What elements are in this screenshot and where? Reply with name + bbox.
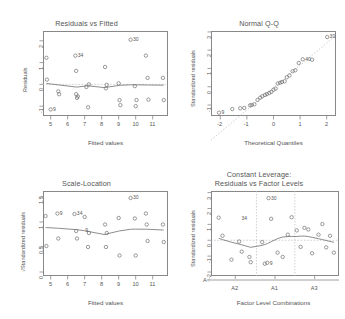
plot-residuals-vs-factor-levels: Constant Leverage: Residuals vs Factor L…: [173, 160, 345, 319]
y-tick-label: 0: [206, 91, 212, 94]
y-tick-label: 1: [38, 226, 44, 229]
x-tick-label: 9: [117, 121, 120, 127]
x-tick-label: 6: [66, 281, 69, 287]
y-tick-label: 1: [206, 228, 212, 231]
group-tick-label: A3: [311, 285, 318, 291]
x-tick-label: 0: [272, 121, 275, 127]
outlier-point-label: 30: [271, 195, 277, 201]
y-tick-label: 3: [206, 196, 212, 199]
x-tick-label: 8: [100, 121, 103, 127]
outlier-point-label: 30: [133, 194, 139, 200]
y-tick-label: -2: [206, 274, 212, 279]
x-tick-label: 10: [132, 121, 138, 127]
y-tick-label: 2: [38, 45, 44, 48]
plot-normal-qq: Normal Q-Q Standardized residuals Theore…: [173, 0, 345, 160]
group-tick-label: A2: [231, 285, 238, 291]
x-axis-label: Fitted values: [43, 299, 168, 306]
x-tick-label: 1: [298, 121, 301, 127]
y-tick-label: 0: [206, 244, 212, 247]
x-tick-label: 10: [132, 281, 138, 287]
x-tick-label: 11: [149, 281, 155, 287]
r-diagnostic-plot-figure: Residuals vs Fitted Residuals Fitted val…: [0, 0, 345, 319]
y-tick-label: 3: [206, 36, 212, 39]
outlier-point-label: 34: [78, 52, 84, 58]
outlier-point-label: 30: [330, 33, 336, 39]
outlier-point-label: 9: [270, 260, 273, 266]
x-tick-label: 11: [149, 121, 155, 127]
y-tick-label: 0.5: [38, 246, 44, 254]
plot-residuals-vs-fitted: Residuals vs Fitted Residuals Fitted val…: [0, 0, 173, 160]
y-tick-label: -1: [206, 258, 212, 263]
y-tick-label: 2: [206, 54, 212, 57]
plot4-canvas: [173, 160, 345, 319]
x-tick-label: 5: [49, 121, 52, 127]
outlier-point-label: 34: [242, 215, 248, 221]
x-tick-label: 9: [117, 281, 120, 287]
x-tick-label: 8: [100, 281, 103, 287]
outlier-point-label: 9: [60, 210, 63, 216]
x-tick-label: 6: [66, 121, 69, 127]
x-tick-label: 2: [325, 121, 328, 127]
y-tick-label: 0: [38, 88, 44, 91]
outlier-point-label: 9: [53, 106, 56, 112]
x-tick-label: 7: [83, 121, 86, 127]
y-tick-label: -1: [38, 108, 44, 113]
outlier-point-label: 40: [305, 56, 311, 62]
x-tick-label: -2: [217, 121, 222, 127]
y-axis-label: Standardized residuals: [190, 210, 196, 267]
y-axis-label: Standardized residuals: [190, 50, 196, 107]
y-tick-label: 1: [38, 66, 44, 69]
x-axis-label: Fitted values: [43, 139, 168, 146]
outlier-point-label: 34: [77, 210, 83, 216]
y-tick-label: 1.5: [38, 196, 44, 204]
y-axis-label: Residuals: [22, 67, 28, 92]
group-tick-label: A1: [271, 285, 278, 291]
outlier-point-label: 30: [133, 36, 139, 42]
outlier-point-label: 9: [221, 109, 224, 115]
x-axis-label: Theoretical Quantiles: [211, 139, 336, 146]
y-tick-label: -1: [206, 107, 212, 112]
plot2-canvas: [173, 0, 345, 160]
y-tick-label: 0: [38, 276, 44, 279]
x-tick-label: -1: [244, 121, 249, 127]
x-axis-label: Factor Level Combinations: [201, 299, 345, 306]
x-tick-label: 5: [49, 281, 52, 287]
plot-scale-location: Scale-Location √Standardized residuals F…: [0, 160, 173, 319]
x-tick-label: 7: [83, 281, 86, 287]
outlier-point-label: 9: [85, 227, 88, 233]
y-axis-label: √Standardized residuals: [20, 212, 26, 272]
